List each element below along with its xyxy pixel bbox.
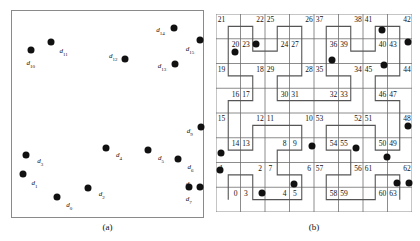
grid-cell-index-r3-c2: 30 <box>281 89 289 98</box>
scatter-plot-box: d0d1d2d3d4d5d6d7d8d9d10d11d12d13d14d15 <box>11 10 204 218</box>
grid-cell-index-r6-c4: 57 <box>316 163 324 172</box>
grid-cell-index-r7-c3: 5 <box>293 188 297 197</box>
label-subscript: 5 <box>161 159 164 164</box>
grid-cell-index-r0-c3: 26 <box>305 15 313 24</box>
grid-cell-index-r5-c2: 8 <box>283 139 287 148</box>
grid-cell-index-r0-c4: 37 <box>316 15 324 24</box>
grid-cell-index-r6-c3: 6 <box>307 163 311 172</box>
grid-data-point-p_d6 <box>383 153 390 160</box>
grid-cell-index-r3-c3: 31 <box>291 89 299 98</box>
grid-cell-index-r0-c0: 21 <box>218 15 226 24</box>
grid-cell-index-r1-c5: 39 <box>340 40 348 49</box>
data-point-label-d10: d10 <box>26 59 35 68</box>
data-point-d3 <box>23 152 30 159</box>
data-point-d9 <box>197 124 204 131</box>
grid-cell-index-r1-c4: 36 <box>330 40 338 49</box>
grid-cell-index-r7-c2: 4 <box>283 188 287 197</box>
grid-data-point-p_d0 <box>259 190 266 197</box>
grid-cell-index-r5-c6: 50 <box>379 139 387 148</box>
data-point-d15 <box>196 37 203 44</box>
grid-cell-index-r3-c1: 17 <box>242 89 250 98</box>
grid-cell-index-r2-c0: 19 <box>218 64 226 73</box>
data-point-label-d4: d4 <box>116 152 122 161</box>
data-point-d6 <box>175 156 182 163</box>
grid-cell-index-r7-c4: 58 <box>330 188 338 197</box>
grid-cell-index-r3-c0: 16 <box>232 89 240 98</box>
panel-b: 2122252637384142202324273639404319182928… <box>210 0 420 241</box>
grid-cell-index-r4-c1: 12 <box>256 114 264 123</box>
grid-data-point-p_d1 <box>216 167 223 174</box>
hilbert-grid-box: 2122252637384142202324273639404319182928… <box>216 14 412 212</box>
grid-cell-index-r7-c5: 59 <box>340 188 348 197</box>
data-point-label-d13: d13 <box>158 62 167 71</box>
panel-b-caption: (b) <box>216 222 412 232</box>
grid-cell-index-r2-c4: 35 <box>316 64 324 73</box>
grid-cell-index-r4-c0: 15 <box>218 114 226 123</box>
data-point-label-d1: d1 <box>32 179 38 188</box>
grid-cell-index-r1-c6: 40 <box>379 40 387 49</box>
panel-a-caption: (a) <box>11 222 204 232</box>
grid-data-point-p_d4 <box>309 142 316 149</box>
grid-cell-index-r1-c3: 27 <box>291 40 299 49</box>
data-point-d2 <box>85 185 92 192</box>
grid-cell-index-r6-c2: 7 <box>269 163 273 172</box>
grid-cell-index-r4-c6: 51 <box>365 114 373 123</box>
grid-cell-index-r0-c5: 38 <box>354 15 362 24</box>
label-subscript: 14 <box>160 31 165 36</box>
grid-data-point-p_d9 <box>405 122 412 129</box>
grid-cell-index-r4-c4: 53 <box>316 114 324 123</box>
grid-data-point-p_d7 <box>394 180 401 187</box>
data-point-label-d0: d0 <box>66 201 72 210</box>
grid-cell-index-r6-c1: 2 <box>258 163 262 172</box>
data-point-label-d11: d11 <box>59 47 67 56</box>
panel-a: d0d1d2d3d4d5d6d7d8d9d10d11d12d13d14d15 (… <box>0 0 210 241</box>
grid-cell-index-r4-c3: 10 <box>305 114 313 123</box>
grid-cell-index-r2-c3: 28 <box>305 64 313 73</box>
data-point-label-d5: d5 <box>158 154 164 163</box>
data-point-label-d8: d8 <box>186 180 192 189</box>
data-point-d11 <box>48 38 55 45</box>
grid-data-point-p_d11 <box>253 40 260 47</box>
data-point-d14 <box>170 24 177 31</box>
label-subscript: 3 <box>41 162 44 167</box>
grid-cell-index-r1-c7: 43 <box>389 40 397 49</box>
grid-data-point-p_d10 <box>232 48 239 55</box>
data-point-label-d15: d15 <box>186 45 195 54</box>
data-point-d5 <box>145 147 152 154</box>
data-point-label-d7: d7 <box>186 195 192 204</box>
grid-data-point-p_d5 <box>352 144 359 151</box>
label-subscript: 8 <box>189 185 192 190</box>
grid-data-point-p_d2 <box>291 181 298 188</box>
label-subscript: 7 <box>189 200 192 205</box>
grid-cell-index-r2-c1: 18 <box>256 64 264 73</box>
grid-cell-index-r6-c7: 62 <box>403 163 411 172</box>
grid-cell-index-r4-c5: 52 <box>354 114 362 123</box>
grid-cell-index-r2-c2: 29 <box>267 64 275 73</box>
grid-cell-index-r3-c5: 33 <box>340 89 348 98</box>
data-point-label-d14: d14 <box>156 26 165 35</box>
label-subscript: 1 <box>35 184 38 189</box>
grid-cell-index-r1-c2: 24 <box>281 40 289 49</box>
grid-cell-index-r1-c1: 23 <box>242 40 250 49</box>
grid-cell-index-r0-c6: 41 <box>365 15 373 24</box>
label-subscript: 0 <box>70 205 73 210</box>
grid-cell-index-r4-c2: 11 <box>267 114 274 123</box>
label-subscript: 9 <box>190 131 193 136</box>
figure-container: d0d1d2d3d4d5d6d7d8d9d10d11d12d13d14d15 (… <box>0 0 420 241</box>
grid-cell-index-r2-c5: 34 <box>354 64 362 73</box>
grid-data-point-p_d15 <box>405 39 412 46</box>
label-subscript: 12 <box>112 57 117 62</box>
grid-cell-index-r5-c5: 55 <box>340 139 348 148</box>
data-point-d1 <box>19 170 26 177</box>
grid-cell-index-r7-c0: 0 <box>234 188 238 197</box>
grid-cell-index-r0-c1: 22 <box>256 15 264 24</box>
label-subscript: 4 <box>119 156 122 161</box>
grid-cell-index-r5-c3: 9 <box>293 139 297 148</box>
label-subscript: 6 <box>191 167 194 172</box>
grid-cell-index-r5-c1: 13 <box>242 139 250 148</box>
grid-data-point-p_d12 <box>329 56 336 63</box>
data-point-d10 <box>27 47 34 54</box>
grid-data-point-p_d14 <box>379 27 386 34</box>
data-point-d13 <box>172 61 179 68</box>
data-point-label-d3: d3 <box>37 158 43 167</box>
